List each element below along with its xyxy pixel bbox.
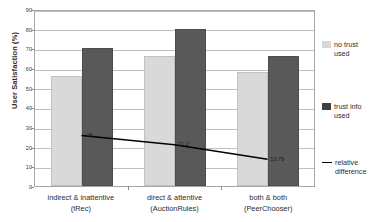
line-marker-icon bbox=[322, 162, 332, 163]
y-tick-label: 30 bbox=[12, 125, 32, 131]
bar-no-trust-used bbox=[144, 56, 175, 186]
x-axis-labels: indirect & inattentive(tRec)direct & att… bbox=[34, 192, 315, 214]
legend-label: no trustused bbox=[334, 40, 358, 59]
bar-no-trust-used bbox=[51, 76, 82, 186]
bar-trust-info-used bbox=[268, 56, 299, 186]
y-tick-mark bbox=[31, 167, 34, 168]
bar-trust-info-used bbox=[82, 48, 113, 186]
y-tick-mark bbox=[31, 148, 34, 149]
bar-group bbox=[128, 11, 221, 186]
y-tick-mark bbox=[31, 108, 34, 109]
x-axis-label: indirect & inattentive(tRec) bbox=[34, 192, 128, 214]
plot-area: 2621.213.79 bbox=[34, 10, 315, 187]
y-tick-label: 70 bbox=[12, 46, 32, 52]
y-tick-label: 60 bbox=[12, 66, 32, 72]
x-axis-separator bbox=[221, 186, 222, 190]
line-point-label: 21.2 bbox=[178, 141, 189, 147]
chart-root: User Satisfaction (%) 2621.213.79 010203… bbox=[0, 0, 380, 222]
legend-item[interactable]: no trustused bbox=[322, 40, 358, 59]
legend-item[interactable]: relativedifference bbox=[322, 158, 366, 177]
y-tick-label: 80 bbox=[12, 27, 32, 33]
y-tick-label: 50 bbox=[12, 86, 32, 92]
y-tick-label: 20 bbox=[12, 145, 32, 151]
dark-swatch-icon bbox=[322, 103, 331, 110]
light-swatch-icon bbox=[322, 41, 331, 48]
bar-group bbox=[35, 11, 128, 186]
x-axis-label: direct & attentive(AuctionRules) bbox=[128, 192, 222, 214]
x-axis-label-sub: (PeerChooser) bbox=[221, 203, 315, 214]
x-axis-label-sub: (AuctionRules) bbox=[128, 203, 222, 214]
y-tick-mark bbox=[31, 187, 34, 188]
x-axis-label: both & both(PeerChooser) bbox=[221, 192, 315, 214]
y-tick-label: 90 bbox=[12, 7, 32, 13]
bar-group bbox=[221, 11, 314, 186]
bar-trust-info-used bbox=[175, 29, 206, 186]
y-tick-mark bbox=[31, 69, 34, 70]
y-tick-mark bbox=[31, 10, 34, 11]
x-axis-label-sub: (tRec) bbox=[34, 203, 128, 214]
legend-label: trust infoused bbox=[334, 102, 362, 121]
x-axis-label-main: direct & attentive bbox=[147, 193, 202, 202]
y-tick-label: 40 bbox=[12, 105, 32, 111]
legend-label: relativedifference bbox=[335, 158, 366, 177]
y-tick-mark bbox=[31, 128, 34, 129]
y-tick-label: 0 bbox=[12, 184, 32, 190]
x-axis-label-main: both & both bbox=[249, 193, 287, 202]
y-tick-label: 10 bbox=[12, 164, 32, 170]
y-tick-mark bbox=[31, 49, 34, 50]
line-point-label: 26 bbox=[87, 132, 93, 138]
x-axis-separator bbox=[128, 186, 129, 190]
y-tick-mark bbox=[31, 30, 34, 31]
line-point-label: 13.79 bbox=[270, 156, 284, 162]
y-tick-mark bbox=[31, 89, 34, 90]
bar-no-trust-used bbox=[237, 72, 268, 186]
x-axis-label-main: indirect & inattentive bbox=[48, 193, 115, 202]
legend-item[interactable]: trust infoused bbox=[322, 102, 362, 121]
